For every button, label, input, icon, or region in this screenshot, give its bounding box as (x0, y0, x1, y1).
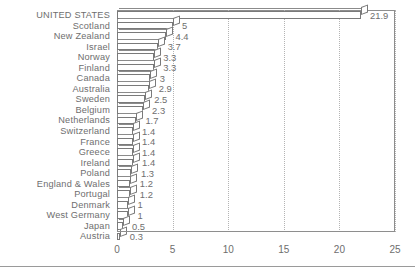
x-axis-line (117, 231, 395, 232)
category-label: Scotland (0, 21, 113, 32)
category-label: Australia (0, 84, 113, 95)
bar-end-cap (158, 36, 165, 46)
x-tick-label: 20 (334, 244, 345, 255)
bar-chart: UNITED STATESScotlandNew ZealandIsraelNo… (0, 0, 415, 279)
category-label: Israel (0, 42, 113, 53)
bar-top-face (119, 71, 152, 74)
bar-row: 2.9 (117, 84, 395, 95)
bar-end-cap (361, 5, 368, 15)
x-tick-label: 15 (278, 244, 289, 255)
bar-top-face (119, 29, 168, 32)
category-label: Austria (0, 231, 113, 242)
category-label: England & Wales (0, 179, 113, 190)
bar-row: 1.4 (117, 158, 395, 169)
bar-row: 2.3 (117, 105, 395, 116)
x-tick-label: 5 (170, 244, 176, 255)
bar-row: 1.4 (117, 147, 395, 158)
bar-row: 3 (117, 73, 395, 84)
bar-end-cap (145, 89, 152, 99)
bar-end-cap (123, 216, 130, 226)
category-label: Netherlands (0, 115, 113, 126)
bar-end-cap (149, 79, 156, 89)
category-label: Japan (0, 221, 113, 232)
bar-value-label: 21.9 (370, 11, 388, 20)
bar-value-label: 1.4 (142, 127, 155, 136)
bar-value-label: 1.3 (141, 169, 154, 178)
bar-end-cap (128, 195, 135, 205)
bar-end-cap (143, 100, 150, 110)
category-label: Poland (0, 168, 113, 179)
category-label: Canada (0, 73, 113, 84)
bar-top-face (119, 103, 145, 106)
bar-value-label: 0.5 (132, 222, 145, 231)
bar-value-label: 1 (138, 211, 143, 220)
bar-value-label: 5 (182, 21, 187, 30)
category-label: Switzerland (0, 126, 113, 137)
bar-top-face (119, 39, 160, 42)
category-label: France (0, 137, 113, 148)
bar-row: 2.5 (117, 94, 395, 105)
bar-row: 1.2 (117, 179, 395, 190)
bar-end-cap (130, 184, 137, 194)
bar-value-label: 1.4 (142, 158, 155, 167)
bar-value-label: 2.5 (154, 95, 167, 104)
bar-end-cap (173, 15, 180, 25)
bar-value-label: 4.4 (175, 32, 188, 41)
bar-end-cap (128, 205, 135, 215)
bar-row: 3.3 (117, 63, 395, 74)
bar-row: 0.5 (117, 221, 395, 232)
category-label: New Zealand (0, 31, 113, 42)
bar-end-cap (136, 110, 143, 120)
bar-top-face (119, 60, 156, 63)
bar-value-label: 1.4 (142, 137, 155, 146)
bars-container: 21.954.43.73.33.332.92.52.31.71.41.41.41… (117, 10, 395, 232)
category-label: West Germany (0, 210, 113, 221)
bar-value-label: 2.3 (152, 106, 165, 115)
bar-row: 1.7 (117, 115, 395, 126)
category-label: UNITED STATES (0, 10, 113, 21)
bar-top-face (119, 50, 156, 53)
bar-value-label: 3 (160, 74, 165, 83)
bar-row: 1.4 (117, 126, 395, 137)
bar-end-cap (154, 47, 161, 57)
bar-end-cap (131, 163, 138, 173)
bar-end-cap (133, 152, 140, 162)
category-axis-labels: UNITED STATESScotlandNew ZealandIsraelNo… (0, 10, 113, 242)
bar-value-label: 0.3 (130, 232, 143, 241)
category-label: Portugal (0, 189, 113, 200)
bar-end-cap (166, 26, 173, 36)
category-label: Denmark (0, 200, 113, 211)
bar-row: 1.4 (117, 137, 395, 148)
bar-row: 1.3 (117, 168, 395, 179)
bar-value-label: 1 (138, 200, 143, 209)
category-label: Sweden (0, 94, 113, 105)
x-tick-label: 10 (223, 244, 234, 255)
category-label: Ireland (0, 158, 113, 169)
bar-row: 0.3 (117, 231, 395, 242)
bar-row: 1.2 (117, 189, 395, 200)
bar-value-label: 1.4 (142, 148, 155, 157)
bar-value-label: 3.3 (163, 63, 176, 72)
bar-row: 1 (117, 200, 395, 211)
category-label: Belgium (0, 105, 113, 116)
bar-end-cap (150, 68, 157, 78)
bar-value-label: 1.7 (145, 116, 158, 125)
category-label: Norway (0, 52, 113, 63)
gridline (395, 10, 396, 232)
bar-row: 1 (117, 210, 395, 221)
bar-top-face (119, 8, 363, 11)
bar-value-label: 3.3 (163, 53, 176, 62)
bar-end-cap (133, 142, 140, 152)
bar-end-cap (130, 174, 137, 184)
bar-value-label: 1.2 (140, 179, 153, 188)
bar-value-label: 2.9 (159, 84, 172, 93)
bar-top-face (119, 92, 147, 95)
bar-end-cap (133, 131, 140, 141)
category-label: Greece (0, 147, 113, 158)
bar-value-label: 1.2 (140, 190, 153, 199)
x-tick-label: 25 (389, 244, 400, 255)
bar-value-label: 3.7 (168, 42, 181, 51)
bar-top-face (119, 18, 175, 21)
bar-end-cap (133, 121, 140, 131)
x-tick-label: 0 (114, 244, 120, 255)
